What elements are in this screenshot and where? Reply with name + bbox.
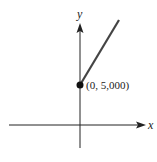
graph-line — [80, 20, 119, 85]
x-axis-label: x — [147, 118, 154, 132]
intercept-point — [77, 82, 84, 89]
y-axis-label: y — [76, 7, 83, 21]
graph: x y (0, 5,000) — [0, 0, 157, 162]
intercept-label: (0, 5,000) — [86, 79, 129, 92]
